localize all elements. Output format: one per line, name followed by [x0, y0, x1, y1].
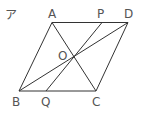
- parallelogram-diagram: ア A P D O B Q C: [0, 0, 146, 114]
- point-label-C: C: [92, 95, 100, 109]
- point-label-D: D: [124, 7, 133, 21]
- segment-PQ: [46, 23, 102, 92]
- point-label-A: A: [48, 7, 57, 21]
- point-label-P: P: [97, 7, 104, 21]
- point-label-B: B: [12, 95, 20, 109]
- point-label-O: O: [58, 49, 67, 63]
- point-label-Q: Q: [41, 95, 50, 109]
- figure-tag-label: ア: [5, 8, 17, 22]
